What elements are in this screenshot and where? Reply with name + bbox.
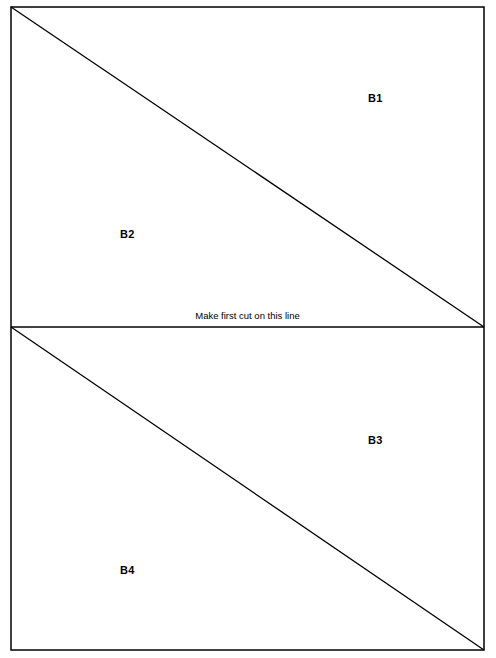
template-linework (0, 0, 496, 658)
region-label-b1: B1 (368, 93, 382, 104)
cut-instruction-text: Make first cut on this line (11, 311, 484, 321)
region-label-b2: B2 (120, 229, 134, 240)
region-label-b3: B3 (368, 435, 382, 446)
sheet-outer-border (11, 7, 484, 650)
region-label-b4: B4 (120, 565, 134, 576)
cut-template-sheet: B1 B2 B3 B4 Make first cut on this line (0, 0, 496, 658)
